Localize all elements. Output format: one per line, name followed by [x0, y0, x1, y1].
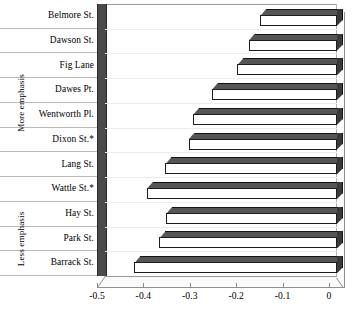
bar-front-face: [193, 114, 337, 125]
bar-side-face: [337, 108, 343, 125]
category-label: Wattle St.*: [51, 184, 94, 193]
bar-side-face: [337, 207, 343, 224]
floor-back-line: [105, 276, 337, 277]
bar-side-face: [337, 133, 343, 150]
plot-row-separator: [105, 152, 337, 153]
bar-top-edge: [243, 58, 343, 59]
x-axis-tick: [143, 283, 144, 287]
bar: [212, 83, 343, 100]
x-axis-tick: [190, 283, 191, 287]
plot-row-separator: [105, 251, 337, 252]
bar: [249, 34, 343, 51]
bar: [193, 108, 343, 125]
bar-front-face: [189, 139, 337, 150]
category-label: Barrack St.: [51, 258, 94, 267]
bar: [165, 157, 343, 174]
bar-side-face: [337, 256, 343, 273]
category-label: Dixon St.*: [52, 135, 94, 144]
plot-top-edge: [105, 4, 337, 5]
bar-side-face: [337, 9, 343, 26]
bar-front-face: [165, 163, 337, 174]
plot-front-right-edge: [344, 12, 345, 288]
plot-area: [97, 4, 345, 284]
bar: [237, 58, 343, 75]
plot-row-separator: [105, 202, 337, 203]
x-axis-tick: [283, 283, 284, 287]
bar-top-edge: [199, 108, 343, 109]
group-label: More emphasis: [16, 74, 26, 132]
bar: [189, 133, 343, 150]
x-axis-tick: [97, 283, 98, 287]
bar-top-edge: [165, 231, 343, 232]
bar-front-face: [249, 40, 337, 51]
x-axis-tick-label: -0.3: [182, 290, 198, 301]
bar-front-face: [147, 188, 337, 199]
plot-row-separator: [105, 78, 337, 79]
group-bracket: More emphasis: [14, 4, 27, 202]
bar-front-face: [134, 262, 337, 273]
category-label: Dawes Pt.: [55, 85, 94, 94]
x-axis-tick-label: -0.4: [136, 290, 152, 301]
bar-top-edge: [266, 9, 343, 10]
bar-front-face: [260, 15, 337, 26]
bar-side-face: [337, 157, 343, 174]
bar-side-face: [337, 182, 343, 199]
x-axis-tick-label: -0.5: [89, 290, 105, 301]
bar-side-face: [337, 83, 343, 100]
plot-row-separator: [105, 53, 337, 54]
category-label: Belmore St.: [48, 11, 94, 20]
group-bracket: Less emphasis: [14, 202, 27, 276]
category-label: Lang St.: [61, 160, 94, 169]
bar-side-face: [337, 34, 343, 51]
bar: [147, 182, 343, 199]
plot-row-separator: [105, 29, 337, 30]
plot-row-separator: [105, 128, 337, 129]
category-label: Wentworth Pl.: [39, 110, 94, 119]
bar: [166, 207, 343, 224]
bar-chart: Belmore St.Dawson St.Fig LaneDawes Pt.We…: [0, 0, 353, 313]
bar-front-face: [159, 237, 337, 248]
bar-front-face: [166, 213, 337, 224]
bar-top-edge: [153, 182, 343, 183]
bar-top-edge: [172, 207, 343, 208]
value-axis: -0.5-0.4-0.3-0.2-0.10: [97, 283, 345, 313]
bar-top-edge: [195, 133, 343, 134]
bar-front-face: [237, 64, 337, 75]
plot-row-separator: [105, 103, 337, 104]
bar-top-edge: [255, 34, 343, 35]
x-axis-tick-label: 0: [327, 290, 332, 301]
bar-top-edge: [140, 256, 343, 257]
category-label: Hay St.: [65, 209, 94, 218]
group-label: Less emphasis: [16, 212, 26, 267]
x-axis-tick: [329, 283, 330, 287]
axis-wall-3d: [97, 4, 107, 276]
bar-front-face: [212, 89, 337, 100]
category-label: Dawson St.: [50, 36, 94, 45]
bar: [159, 231, 343, 248]
bar-top-edge: [218, 83, 343, 84]
bar-side-face: [337, 231, 343, 248]
x-axis-tick: [236, 283, 237, 287]
bar: [134, 256, 343, 273]
x-axis-tick-label: -0.1: [275, 290, 291, 301]
plot-row-separator: [105, 177, 337, 178]
category-label: Fig Lane: [60, 61, 94, 70]
bar-top-edge: [171, 157, 343, 158]
x-axis-tick-label: -0.2: [228, 290, 244, 301]
plot-row-separator: [105, 227, 337, 228]
bar-side-face: [337, 58, 343, 75]
category-label: Park St.: [64, 234, 95, 243]
bar: [260, 9, 343, 26]
